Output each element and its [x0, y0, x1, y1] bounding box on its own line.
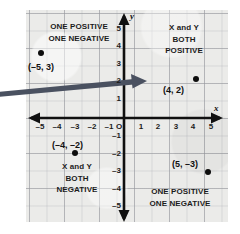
quadrant-1-line-2: BOTH — [146, 34, 222, 46]
data-point-4-2 — [193, 76, 199, 82]
quadrant-3-annotation: X and Y BOTH NEGATIVE — [39, 161, 115, 196]
y-tick-3: 3 — [110, 59, 121, 68]
data-point-neg5-3 — [38, 50, 44, 56]
x-tick-4: 4 — [188, 122, 198, 131]
y-tick-1: 1 — [110, 94, 121, 103]
y-tick-neg1: –1 — [107, 131, 121, 140]
y-tick-2: 2 — [110, 76, 121, 85]
x-tick-neg3: –3 — [68, 122, 82, 131]
data-point-label-4-2: (4, 2) — [163, 85, 184, 95]
y-tick-4: 4 — [110, 41, 121, 50]
quadrant-3-line-2: BOTH — [39, 173, 115, 185]
x-tick-neg2: –2 — [85, 122, 99, 131]
quadrant-1-line-3: POSITIVE — [146, 45, 222, 57]
x-axis-name: x — [214, 104, 219, 113]
x-tick-5: 5 — [206, 122, 216, 131]
y-tick-neg5: –5 — [107, 201, 121, 210]
quadrant-4-line-2: ONE NEGATIVE — [134, 198, 226, 210]
data-point-label-neg4-neg2: (–4, –2) — [52, 140, 83, 150]
y-tick-neg3: –3 — [107, 166, 121, 175]
data-point-5-neg3 — [205, 169, 211, 175]
y-tick-neg2: –2 — [107, 149, 121, 158]
data-point-neg4-neg2 — [72, 150, 78, 156]
coordinate-plane-figure: ONE POSITIVE ONE NEGATIVE X and Y BOTH P… — [0, 0, 240, 234]
x-tick-1: 1 — [136, 122, 146, 131]
x-tick-neg5: –5 — [33, 122, 47, 131]
y-tick-neg4: –4 — [107, 184, 121, 193]
quadrant-4-annotation: ONE POSITIVE ONE NEGATIVE — [134, 186, 226, 209]
x-tick-neg4: –4 — [50, 122, 64, 131]
quadrant-3-line-3: NEGATIVE — [39, 184, 115, 196]
data-point-label-5-neg3: (5, –3) — [172, 159, 198, 169]
pointer-arrow-head — [131, 74, 147, 89]
x-tick-3: 3 — [171, 122, 181, 131]
quadrant-1-annotation: X and Y BOTH POSITIVE — [146, 22, 222, 57]
data-point-label-neg5-3: (–5, 3) — [28, 62, 54, 72]
quadrant-1-line-1: X and Y — [146, 22, 222, 34]
quadrant-4-line-1: ONE POSITIVE — [134, 186, 226, 198]
quadrant-3-line-1: X and Y — [39, 161, 115, 173]
y-tick-5: 5 — [110, 24, 121, 33]
origin-label: O — [114, 122, 124, 131]
x-tick-2: 2 — [153, 122, 163, 131]
y-axis-name: y — [130, 12, 134, 21]
